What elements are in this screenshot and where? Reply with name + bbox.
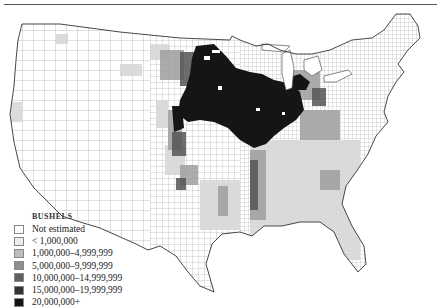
- legend-label: Not estimated: [32, 224, 85, 234]
- legend-swatch: [14, 298, 24, 307]
- legend-label: 15,000,000–19,999,999: [32, 285, 122, 295]
- legend-label: 10,000,000–14,999,999: [32, 273, 122, 283]
- legend-swatch: [14, 237, 24, 246]
- legend-item: 10,000,000–14,999,999: [14, 272, 122, 284]
- legend-swatch: [14, 249, 24, 258]
- legend-item: 20,000,000+: [14, 296, 122, 308]
- top-rule: [4, 4, 437, 5]
- legend-label: < 1,000,000: [32, 236, 78, 246]
- legend-label: 20,000,000+: [32, 297, 80, 307]
- legend-item: Not estimated: [14, 223, 122, 235]
- legend-title: BUSHELS: [32, 212, 122, 221]
- legend-swatch: [14, 261, 24, 270]
- legend-item: 1,000,000–4,999,999: [14, 247, 122, 259]
- legend: BUSHELS Not estimated < 1,000,000 1,000,…: [14, 212, 122, 308]
- legend-label: 1,000,000–4,999,999: [32, 248, 113, 258]
- legend-swatch: [14, 225, 24, 234]
- legend-item: < 1,000,000: [14, 235, 122, 247]
- legend-swatch: [14, 286, 24, 295]
- legend-swatch: [14, 273, 24, 282]
- legend-item: 15,000,000–19,999,999: [14, 284, 122, 296]
- legend-item: 5,000,000–9,999,999: [14, 260, 122, 272]
- legend-label: 5,000,000–9,999,999: [32, 261, 113, 271]
